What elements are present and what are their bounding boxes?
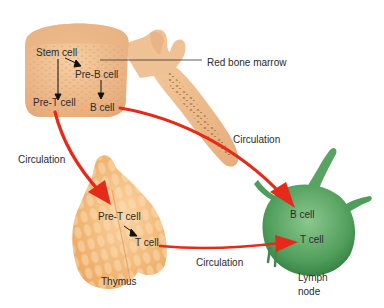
label-circulation-thymus-to-lymph: Circulation [196, 257, 243, 269]
label-b-cell-marrow: B cell [90, 102, 114, 114]
label-red-bone-marrow: Red bone marrow [207, 57, 286, 69]
label-pre-t-cell-marrow: Pre-T cell [33, 97, 76, 109]
label-circulation-marrow-to-lymph: Circulation [233, 134, 280, 146]
label-circulation-marrow-to-thymus: Circulation [18, 154, 65, 166]
label-t-cell-lymph-node: T cell [300, 234, 324, 246]
label-b-cell-lymph-node: B cell [290, 209, 314, 221]
label-node: node [298, 286, 320, 298]
label-lymph: Lymph [298, 272, 328, 284]
lymphocyte-origin-diagram: Stem cell Pre-B cell Pre-T cell B cell R… [0, 0, 384, 308]
label-pre-t-cell-thymus: Pre-T cell [98, 211, 141, 223]
label-stem-cell: Stem cell [36, 47, 77, 59]
label-t-cell-thymus: T cell [135, 237, 159, 249]
arrow-thymus-to-lymph-node [160, 243, 280, 248]
label-thymus: Thymus [101, 276, 137, 288]
label-pre-b-cell: Pre-B cell [75, 69, 118, 81]
